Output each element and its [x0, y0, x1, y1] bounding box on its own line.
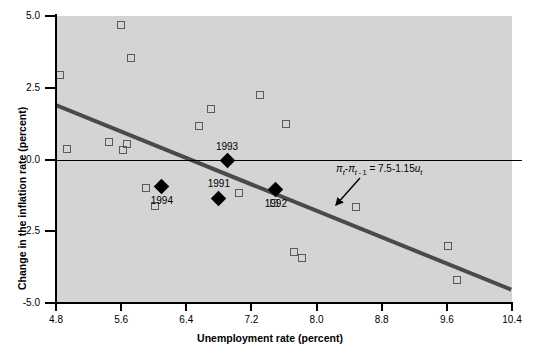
scatter-plot-figure: 1994199119921993 5.02.50.0-2.5-5.04.85.6… [0, 0, 540, 356]
annotation-arrow-icon [0, 0, 540, 356]
zero-reference-line [56, 160, 522, 161]
